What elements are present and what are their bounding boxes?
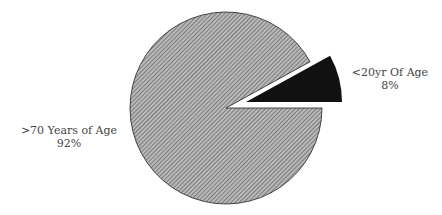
pie-slice-over-70 bbox=[130, 12, 322, 204]
pie-chart bbox=[0, 0, 442, 215]
label-over-70-name: >70 Years of Age bbox=[14, 124, 124, 137]
label-under-20-name: <20yr Of Age bbox=[340, 66, 440, 79]
label-over-70: >70 Years of Age 92% bbox=[14, 124, 124, 150]
label-under-20-value: 8% bbox=[340, 79, 440, 92]
label-over-70-value: 92% bbox=[14, 137, 124, 150]
label-under-20: <20yr Of Age 8% bbox=[340, 66, 440, 92]
